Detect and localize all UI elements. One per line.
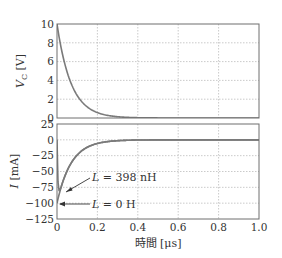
- top-ylabel: VC [V]: [14, 54, 29, 88]
- x-tick-label: 0.4: [129, 221, 146, 233]
- x-tick-label: 0: [54, 221, 61, 233]
- y-tick-label: 0: [47, 134, 54, 146]
- x-tick-label: 1.0: [251, 221, 268, 233]
- y-tick-label: 4: [47, 74, 54, 86]
- y-tick-label: 25: [41, 118, 54, 130]
- y-tick-label: −100: [25, 197, 54, 209]
- y-tick-label: 2: [47, 93, 54, 105]
- x-tick-label: 0.8: [210, 221, 227, 233]
- arrow-head-icon: [59, 202, 65, 207]
- x-tick-label: 0.2: [89, 221, 106, 233]
- series-line: [57, 24, 259, 118]
- y-tick-label: −75: [32, 181, 54, 193]
- y-tick-label: 6: [47, 55, 54, 67]
- arrow-head-icon: [66, 187, 73, 192]
- svg-text:L = 0 H: L = 0 H: [91, 198, 136, 211]
- voltage-plot: 0246810: [41, 18, 259, 124]
- bottom-ylabel: I [mA]: [8, 154, 21, 190]
- annotation-l398: L = 398 nH: [66, 171, 157, 192]
- x-axis-label: 時間 [μs]: [135, 237, 182, 250]
- y-tick-label: 8: [47, 37, 54, 49]
- svg-text:L = 398 nH: L = 398 nH: [91, 171, 157, 184]
- y-tick-label: −25: [32, 149, 54, 161]
- series-line: [57, 140, 259, 190]
- annotation-l0: L = 0 H: [59, 198, 136, 211]
- chart-figure: 0246810 250−25−50−75−100−12500.20.40.60.…: [0, 0, 282, 258]
- y-tick-label: −50: [32, 165, 54, 177]
- y-tick-label: 10: [41, 18, 54, 30]
- plot-frame: [57, 24, 259, 118]
- x-tick-label: 0.6: [170, 221, 187, 233]
- y-tick-label: −125: [25, 213, 54, 225]
